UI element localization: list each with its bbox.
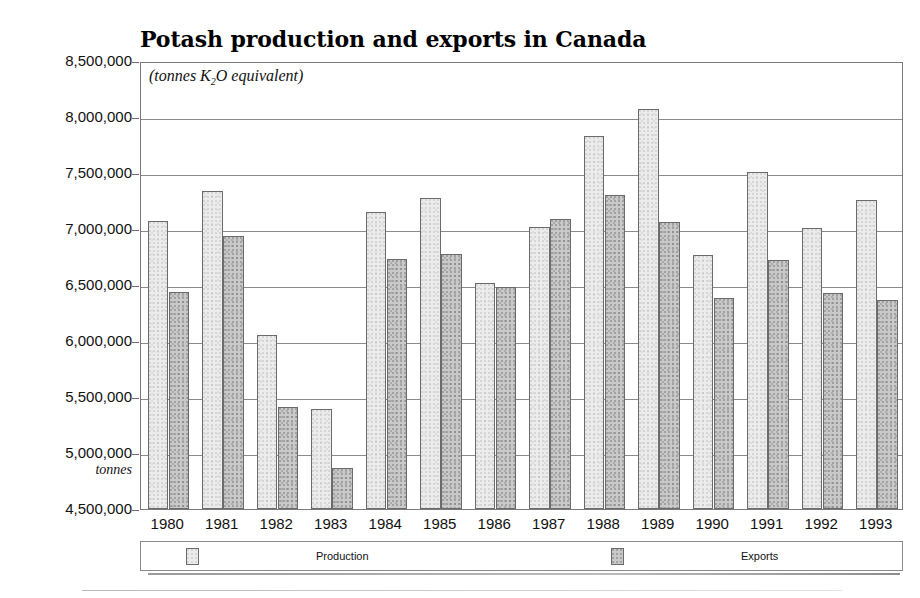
x-tick-label-1984: 1984: [358, 515, 413, 532]
legend-swatch-exports: [611, 548, 624, 565]
bar-production-1991: [747, 172, 768, 509]
bar-production-1990: [693, 255, 714, 509]
x-tick-label-1989: 1989: [631, 515, 686, 532]
x-tick-label-1990: 1990: [685, 515, 740, 532]
y-tick-label: 6,000,000: [65, 332, 132, 349]
bar-exports-1986: [496, 287, 517, 509]
x-axis: 1980198119821983198419851986198719881989…: [140, 513, 903, 539]
bar-exports-1993: [877, 300, 898, 509]
bar-exports-1981: [223, 236, 244, 509]
bar-production-1988: [584, 136, 605, 509]
x-tick-label-1993: 1993: [849, 515, 904, 532]
bar-production-1984: [366, 212, 387, 509]
subtitle-band: (tonnes K2O equivalent): [141, 63, 902, 91]
y-tick-mark: [132, 510, 139, 511]
plot-area: (tonnes K2O equivalent): [140, 62, 903, 510]
x-tick-label-1981: 1981: [195, 515, 250, 532]
chart-subtitle-prefix: (tonnes K: [149, 67, 211, 84]
chart-subtitle: (tonnes K2O equivalent): [149, 67, 303, 87]
y-tick-mark: [132, 62, 139, 63]
legend-label-production: Production: [316, 550, 369, 562]
divider-upper: [148, 573, 900, 575]
x-tick-label-1980: 1980: [140, 515, 195, 532]
y-axis-unit-label: tonnes: [95, 462, 132, 478]
bar-exports-1989: [659, 222, 680, 509]
legend-entry-exports[interactable]: [611, 542, 624, 570]
y-tick-label: 6,500,000: [65, 276, 132, 293]
y-tick-mark: [132, 174, 139, 175]
y-tick-mark: [132, 286, 139, 287]
bar-exports-1991: [768, 260, 789, 509]
y-tick-label: 7,500,000: [65, 164, 132, 181]
x-tick-label-1987: 1987: [522, 515, 577, 532]
bar-exports-1982: [278, 407, 299, 509]
y-tick-label: 7,000,000: [65, 220, 132, 237]
y-tick-label: 5,500,000: [65, 388, 132, 405]
x-tick-label-1985: 1985: [413, 515, 468, 532]
y-tick-mark: [132, 398, 139, 399]
x-tick-label-1986: 1986: [467, 515, 522, 532]
legend-label-exports: Exports: [741, 550, 778, 562]
bar-exports-1990: [714, 298, 735, 509]
bar-exports-1992: [823, 293, 844, 509]
x-tick-label-1992: 1992: [794, 515, 849, 532]
gridline: [141, 231, 902, 232]
bar-production-1992: [802, 228, 823, 509]
y-tick-mark: [132, 342, 139, 343]
x-tick-label-1982: 1982: [249, 515, 304, 532]
y-tick-label: 8,000,000: [65, 108, 132, 125]
gridline: [141, 175, 902, 176]
y-tick-mark: [132, 454, 139, 455]
legend-entry-production[interactable]: [186, 542, 199, 570]
bar-exports-1984: [387, 259, 408, 509]
bar-production-1982: [257, 335, 278, 509]
bar-production-1983: [311, 409, 332, 509]
y-tick-mark: [132, 118, 139, 119]
bar-exports-1988: [605, 195, 626, 509]
bar-exports-1987: [550, 219, 571, 509]
x-tick-label-1991: 1991: [740, 515, 795, 532]
bar-exports-1983: [332, 468, 353, 509]
bar-exports-1980: [169, 292, 190, 509]
bar-production-1993: [856, 200, 877, 509]
chart-figure: Potash production and exports in Canada …: [0, 0, 920, 598]
y-axis: 8,500,0008,000,0007,500,0007,000,0006,50…: [0, 0, 132, 598]
bar-production-1981: [202, 191, 223, 509]
y-tick-label: 5,000,000: [65, 444, 132, 461]
bar-production-1987: [529, 227, 550, 509]
bar-exports-1985: [441, 254, 462, 509]
bar-production-1986: [475, 283, 496, 509]
y-tick-label: 4,500,000: [65, 500, 132, 517]
y-tick-mark: [132, 230, 139, 231]
bar-production-1980: [148, 221, 169, 509]
x-tick-label-1983: 1983: [304, 515, 359, 532]
chart-legend: ProductionExports: [140, 541, 903, 571]
x-tick-label-1988: 1988: [576, 515, 631, 532]
chart-subtitle-suffix: O equivalent): [216, 67, 304, 84]
legend-swatch-production: [186, 548, 199, 565]
bar-production-1985: [420, 198, 441, 509]
bar-production-1989: [638, 109, 659, 509]
divider-lower: [82, 590, 842, 591]
y-tick-label: 8,500,000: [65, 52, 132, 69]
chart-title: Potash production and exports in Canada: [140, 26, 646, 52]
gridline: [141, 119, 902, 120]
